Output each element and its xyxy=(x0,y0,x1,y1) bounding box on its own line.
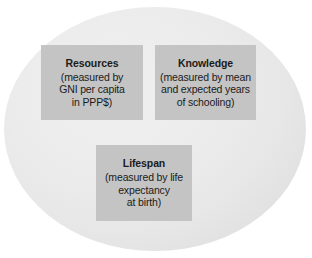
concept-box-knowledge[interactable]: Knowledge (measured by mean and expected… xyxy=(155,45,256,120)
diagram-canvas: Resources (measured by GNI per capita in… xyxy=(0,0,312,258)
concept-description-knowledge: (measured by mean and expected years of … xyxy=(160,71,251,109)
concept-description-lifespan: (measured by life expectancy at birth) xyxy=(105,171,183,209)
concept-box-resources[interactable]: Resources (measured by GNI per capita in… xyxy=(41,45,143,120)
concept-title-resources: Resources xyxy=(66,57,119,70)
concept-box-lifespan[interactable]: Lifespan (measured by life expectancy at… xyxy=(96,145,192,221)
concept-title-lifespan: Lifespan xyxy=(123,157,165,170)
concept-description-resources: (measured by GNI per capita in PPP$) xyxy=(59,71,125,109)
concept-title-knowledge: Knowledge xyxy=(178,57,233,70)
